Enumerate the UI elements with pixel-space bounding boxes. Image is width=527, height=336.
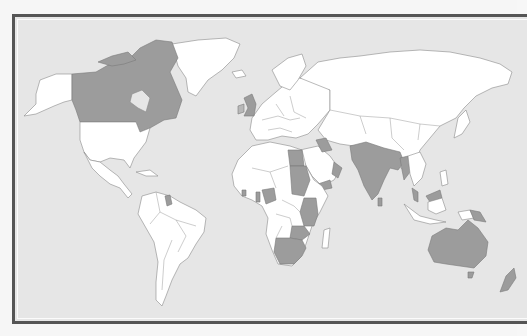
alaska bbox=[24, 74, 72, 116]
indochina bbox=[408, 152, 426, 186]
sri-lanka bbox=[378, 198, 382, 206]
tasmania bbox=[468, 272, 474, 278]
papua-new-guinea bbox=[470, 210, 486, 222]
south-america bbox=[138, 192, 206, 306]
russia-asia bbox=[300, 50, 512, 170]
new-zealand bbox=[500, 268, 516, 292]
malaysia bbox=[412, 188, 418, 202]
iceland bbox=[232, 70, 246, 78]
egypt bbox=[288, 150, 304, 166]
pakistan-india-bangladesh bbox=[350, 142, 404, 200]
cuba bbox=[136, 170, 158, 176]
greenland bbox=[172, 38, 240, 96]
ireland bbox=[238, 104, 244, 114]
united-kingdom bbox=[244, 94, 256, 116]
east-africa bbox=[300, 198, 318, 226]
sierra-leone bbox=[242, 190, 246, 196]
ghana bbox=[256, 192, 260, 202]
southern-africa bbox=[274, 238, 306, 264]
australia bbox=[428, 220, 488, 268]
philippines bbox=[440, 170, 448, 186]
madagascar bbox=[322, 228, 330, 248]
